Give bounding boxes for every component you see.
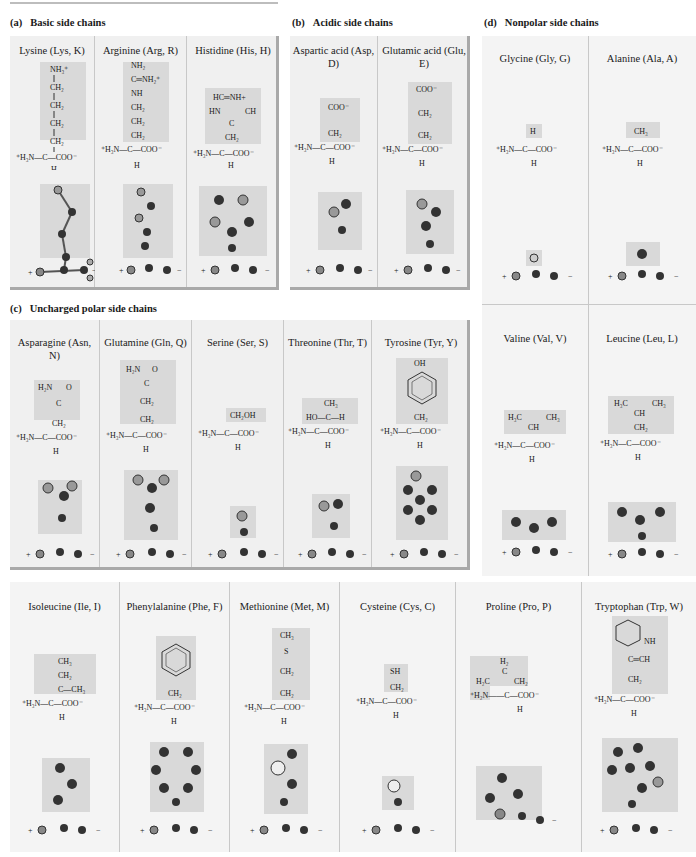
svg-text:H: H [529, 455, 535, 464]
svg-text:+: + [28, 268, 33, 277]
svg-text:H: H [530, 127, 536, 136]
svg-text:⁺H₃N—C—COO⁻: ⁺H₃N—C—COO⁻ [288, 427, 349, 436]
svg-text:H: H [228, 161, 234, 170]
cell-glutamic-acid: Glutamic acid (Glu, E) COO⁻CH₂CH₂ ⁺H₃N—C… [378, 36, 470, 287]
svg-text:−: − [208, 826, 213, 835]
aa-name: Tyrosine (Tyr, Y) [372, 336, 470, 349]
cell-isoleucine: Isoleucine (Ile, I) CH₃CH₂C—CH₃ ⁺H₃N—C—C… [10, 582, 120, 852]
panel-acidic: Aspartic acid (Asp, D) COO⁻CH₂ ⁺H₃N—C—CO… [290, 36, 470, 290]
svg-text:H: H [417, 441, 423, 450]
structural-formula: SHCH₂ ⁺H₃N—C—COO⁻H [340, 662, 456, 730]
svg-text:−: − [430, 826, 435, 835]
svg-text:−: − [182, 550, 187, 559]
structural-formula: H₂NOC CH₂ ⁺H₃N—C—COO⁻H [10, 376, 100, 460]
cell-histidine: Histidine (His, H) HC═NH+HNCH CCH₂ ⁺H₃N—… [187, 36, 279, 287]
cell-alanine: Alanine (Ala, A) CH₃ ⁺H₃N—C—COO⁻H +− [588, 36, 696, 304]
svg-text:+: + [250, 826, 255, 835]
svg-text:CH₂: CH₂ [168, 689, 182, 698]
svg-text:CH₂: CH₂ [50, 101, 64, 110]
aa-name: Glycine (Gly, G) [482, 52, 588, 65]
ball-stick-model: +− [95, 182, 187, 282]
svg-text:H: H [281, 717, 287, 726]
structural-formula: CH₃HO—C—H ⁺H₃N—C—COO⁻H [284, 396, 372, 460]
svg-text:+: + [119, 266, 124, 275]
svg-text:C: C [229, 119, 234, 128]
svg-text:CH₂: CH₂ [280, 689, 294, 698]
svg-text:−: − [90, 550, 95, 559]
svg-text:CH₂: CH₂ [414, 413, 428, 422]
ball-stick-model: +− [230, 742, 340, 848]
cell-arginine: Arginine (Arg, R) NH₂C═NH₂⁺ NHCH₂ CH₂CH₂… [95, 36, 187, 287]
svg-text:CH₂: CH₂ [50, 137, 64, 146]
cell-lysine: Lysine (Lys, K) NH₃⁺ CH₂ CH₂ CH₂ CH₂ ⁺H₃… [10, 36, 95, 287]
svg-text:+: + [394, 266, 399, 275]
aa-name: Lysine (Lys, K) [10, 44, 94, 57]
ball-stick-model: +− [588, 240, 696, 298]
ball-stick-model: +− [192, 466, 284, 566]
svg-text:⁺H₃N—C—COO⁻: ⁺H₃N—C—COO⁻ [600, 439, 661, 448]
aa-name: Aspartic acid (Asp, D) [290, 44, 377, 70]
ball-stick-model: +− [372, 466, 470, 566]
structural-formula: H₂C H₂CCH₂ ⁺H₂N——C—COO⁻H [456, 654, 582, 730]
cell-leucine: Leucine (Leu, L) H₃CCH₃CH CH₂ ⁺H₃N—C—COO… [588, 304, 696, 576]
svg-text:H: H [517, 705, 523, 714]
panel-nonpolar-upper: Glycine (Gly, G) H ⁺H₃N—C—COO⁻H +− Alani… [482, 36, 696, 576]
svg-text:−: − [96, 826, 101, 835]
svg-text:+: + [208, 550, 213, 559]
svg-text:CH₂: CH₂ [634, 423, 648, 432]
svg-text:CH₂: CH₂ [628, 675, 642, 684]
svg-text:C: C [502, 667, 507, 676]
svg-text:+: + [362, 826, 367, 835]
aa-name: Asparagine (Asn, N) [10, 336, 99, 362]
cell-aspartic-acid: Aspartic acid (Asp, D) COO⁻CH₂ ⁺H₃N—C—CO… [290, 36, 378, 287]
svg-text:⁺H₃N—C—COO⁻: ⁺H₃N—C—COO⁻ [134, 703, 195, 712]
ball-stick-model: +− [10, 466, 100, 566]
section-title-acidic: (b)Acidic side chains [292, 17, 393, 28]
structural-formula: H₃CCH₃CH ⁺H₃N—C—COO⁻H [482, 408, 588, 468]
svg-text:−: − [362, 550, 367, 559]
svg-text:CH₂OH: CH₂OH [230, 411, 256, 420]
cell-methionine: Methionine (Met, M) CH₃SCH₂CH₂ ⁺H₃N—C—CO… [230, 582, 340, 852]
svg-text:⁺H₃N—C—COO⁻: ⁺H₃N—C—COO⁻ [602, 145, 663, 154]
svg-text:+: + [140, 826, 145, 835]
structural-formula: CH₃ ⁺H₃N—C—COO⁻H [588, 120, 696, 176]
aa-name: Isoleucine (Ile, I) [10, 600, 119, 613]
svg-text:−: − [274, 550, 279, 559]
panel-basic: Lysine (Lys, K) NH₃⁺ CH₂ CH₂ CH₂ CH₂ ⁺H₃… [10, 36, 279, 290]
svg-text:H₃C: H₃C [614, 399, 628, 408]
svg-text:⁺H₃N—C—COO⁻: ⁺H₃N—C—COO⁻ [22, 699, 83, 708]
section-title-basic: (a)Basic side chains [10, 17, 106, 28]
ball-stick-model: +− [482, 248, 588, 298]
structural-formula: CH₃CH₂C—CH₃ ⁺H₃N—C—COO⁻H [10, 650, 120, 730]
svg-text:+: + [298, 550, 303, 559]
cell-glycine: Glycine (Gly, G) H ⁺H₃N—C—COO⁻H +− [482, 36, 588, 304]
svg-text:H: H [235, 443, 241, 452]
aa-name: Glutamine (Gln, Q) [100, 336, 191, 349]
svg-text:H: H [51, 165, 57, 170]
ball-stick-model: +− [10, 752, 120, 848]
aa-name: Valine (Val, V) [482, 332, 588, 345]
svg-text:CH₂: CH₂ [50, 83, 64, 92]
cell-serine: Serine (Ser, S) CH₂OH ⁺H₃N—C—COO⁻H +− [192, 320, 284, 567]
svg-text:S: S [284, 647, 288, 656]
svg-text:⁺H₃N—C—COO⁻: ⁺H₃N—C—COO⁻ [106, 431, 167, 440]
ball-stick-model: +− [588, 500, 696, 572]
svg-text:H₂N: H₂N [38, 383, 53, 392]
svg-text:−: − [318, 826, 323, 835]
svg-text:+: + [116, 550, 121, 559]
svg-text:+: + [600, 826, 605, 835]
aa-name: Phenylalanine (Phe, F) [120, 600, 229, 613]
structural-formula: NH₃⁺ CH₂ CH₂ CH₂ CH₂ ⁺H₃N—C—COO⁻ H [10, 60, 95, 170]
aa-name: Histidine (His, H) [187, 44, 279, 57]
cell-tyrosine: Tyrosine (Tyr, Y) OH CH₂ ⁺H₃N—C—COO⁻H +− [372, 320, 470, 567]
svg-text:NH₃⁺: NH₃⁺ [50, 65, 68, 74]
svg-text:H: H [325, 441, 331, 450]
svg-text:⁺H₃N—C—COO⁻: ⁺H₃N—C—COO⁻ [16, 153, 77, 162]
svg-text:CH₂: CH₂ [418, 109, 432, 118]
structural-formula: H ⁺H₃N—C—COO⁻H [482, 122, 588, 176]
aa-name: Alanine (Ala, A) [588, 52, 696, 65]
svg-text:COO⁻: COO⁻ [416, 85, 437, 94]
top-rule [10, 0, 278, 4]
svg-text:C: C [144, 379, 149, 388]
svg-text:CH₂: CH₂ [52, 419, 66, 428]
